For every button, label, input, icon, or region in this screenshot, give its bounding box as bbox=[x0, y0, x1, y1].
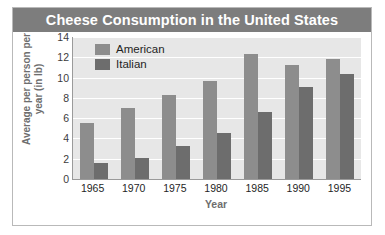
bar-group bbox=[244, 37, 272, 179]
bar-italian-1995 bbox=[340, 74, 354, 179]
x-tick-label: 1975 bbox=[163, 182, 186, 194]
y-tick-label: 6 bbox=[49, 112, 69, 124]
x-tick-label: 1980 bbox=[204, 182, 227, 194]
bar-american-1980 bbox=[203, 81, 217, 179]
bar-italian-1965 bbox=[94, 163, 108, 179]
bar-italian-1970 bbox=[135, 158, 149, 179]
chart-figure: Cheese Consumption in the United States … bbox=[12, 7, 372, 226]
bar-group bbox=[203, 37, 231, 179]
legend-item-italian: Italian bbox=[95, 58, 165, 70]
legend-label: Italian bbox=[116, 58, 147, 70]
x-tick-label: 1995 bbox=[328, 182, 351, 194]
x-tick-label: 1985 bbox=[245, 182, 268, 194]
bar-italian-1980 bbox=[217, 133, 231, 179]
x-tick-label: 1990 bbox=[287, 182, 310, 194]
bar-american-1985 bbox=[244, 54, 258, 179]
y-tick-label: 2 bbox=[49, 153, 69, 165]
y-tick-label: 4 bbox=[49, 132, 69, 144]
plot-area: AmericanItalian bbox=[72, 37, 361, 180]
bar-group bbox=[162, 37, 190, 179]
y-axis-tick-labels: 02468101214 bbox=[49, 37, 69, 179]
bar-american-1990 bbox=[285, 65, 299, 179]
y-tick-label: 0 bbox=[49, 173, 69, 185]
bar-italian-1990 bbox=[299, 87, 313, 179]
legend-item-american: American bbox=[95, 43, 165, 55]
bar-american-1965 bbox=[80, 123, 94, 179]
chart-title: Cheese Consumption in the United States bbox=[46, 12, 338, 28]
y-tick-label: 12 bbox=[49, 51, 69, 63]
bar-group bbox=[326, 37, 354, 179]
legend-label: American bbox=[116, 43, 165, 55]
x-axis-tick-labels: 1965197019751980198519901995 bbox=[72, 182, 360, 198]
bar-group bbox=[285, 37, 313, 179]
y-tick-label: 14 bbox=[49, 31, 69, 43]
bar-italian-1975 bbox=[176, 146, 190, 179]
y-axis-label: Average per person per year (in lb) bbox=[20, 24, 46, 154]
bar-american-1995 bbox=[326, 59, 340, 179]
bar-italian-1985 bbox=[258, 112, 272, 179]
bar-american-1970 bbox=[121, 108, 135, 179]
x-tick-label: 1970 bbox=[122, 182, 145, 194]
legend-swatch-american bbox=[95, 44, 110, 55]
bar-american-1975 bbox=[162, 95, 176, 179]
x-tick-label: 1965 bbox=[81, 182, 104, 194]
chart-legend: AmericanItalian bbox=[95, 43, 165, 70]
x-axis-label: Year bbox=[72, 198, 360, 210]
y-tick-label: 8 bbox=[49, 92, 69, 104]
chart-title-bar: Cheese Consumption in the United States bbox=[13, 8, 371, 32]
legend-swatch-italian bbox=[95, 59, 110, 70]
y-tick-label: 10 bbox=[49, 72, 69, 84]
